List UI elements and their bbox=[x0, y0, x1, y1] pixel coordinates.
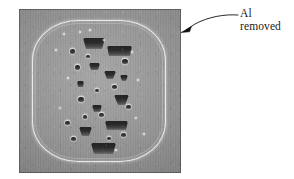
arrowhead-icon bbox=[181, 26, 192, 32]
sem-micrograph-image bbox=[19, 9, 181, 173]
figure-root: Al removed bbox=[0, 0, 294, 179]
annotation-label-line2: removed bbox=[240, 20, 294, 33]
annotation-label: Al removed bbox=[240, 7, 294, 32]
micrograph-border bbox=[19, 9, 181, 173]
annotation-label-line1: Al bbox=[240, 7, 294, 20]
